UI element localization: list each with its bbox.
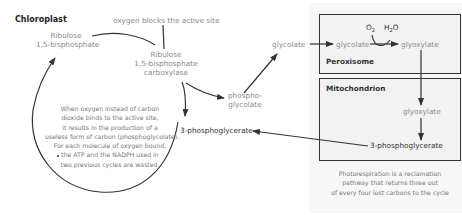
rubisco-label: Ribulose 1,5-bisphosphate carboxylase <box>134 50 198 77</box>
pga-chloroplast-label: 3-phosphoglycerate <box>180 126 253 135</box>
pga-return-arrow <box>253 131 368 146</box>
rubisco-to-phosphoglycolate-arrow <box>186 83 224 98</box>
o2-label: O2 <box>366 23 375 35</box>
pga-mito-label: 3-phosphoglycerate <box>370 141 443 150</box>
rubisco-to-pga-arrow <box>182 82 186 116</box>
h2o-label: H2O <box>384 23 398 35</box>
oxygen-blocks-annotation: oxygen blocks the active site <box>113 16 219 25</box>
rubp-label: Ribulose 1,5-bisphosphate <box>36 31 96 49</box>
rubp-to-rubisco-arc <box>92 33 155 45</box>
phosphoglycolate-to-glycolate-arrow <box>244 54 277 93</box>
phosphoglycolate-label: phospho- glycolate <box>225 91 265 109</box>
oxygen-block-line <box>163 25 164 49</box>
glyoxylate-mito-label: glyoxylate <box>403 107 441 116</box>
glycolate-peroxisome-label: glycolate <box>336 40 369 49</box>
glyoxylate-peroxisome-label: glyoxylate <box>401 40 439 49</box>
glycolate-chloroplast-label: glycolate <box>272 40 305 49</box>
chloroplast-title: Chloroplast <box>15 15 67 24</box>
circle-explanation-note: When oxygen instead of carbon dioxide bi… <box>45 104 175 169</box>
photorespiration-caption: Photorespiration is a reclamation pathwa… <box>318 169 462 197</box>
